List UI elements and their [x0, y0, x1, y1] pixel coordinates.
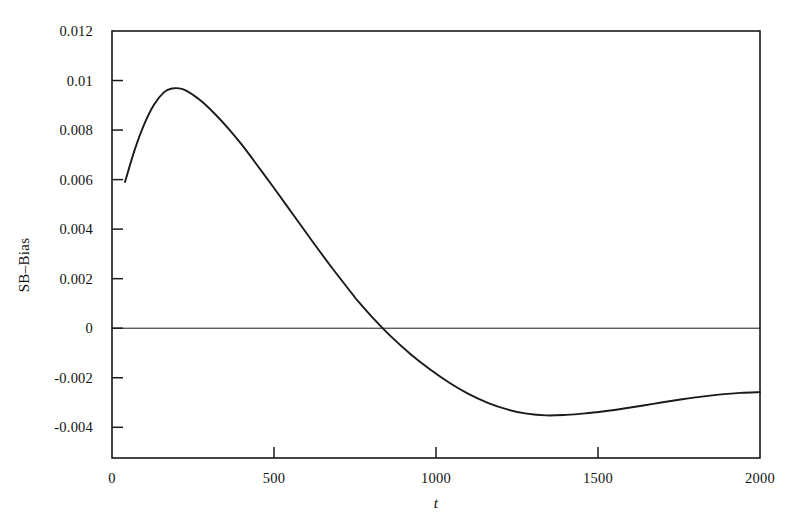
x-axis-label: t	[434, 494, 438, 512]
y-tick-label: -0.002	[0, 369, 93, 386]
x-tick-label: 0	[108, 470, 115, 487]
y-tick-label: -0.004	[0, 419, 93, 436]
y-tick-label: 0.004	[0, 221, 93, 238]
x-tick-label: 1000	[421, 470, 451, 487]
y-tick-label: 0.012	[0, 23, 93, 40]
y-tick-label: 0.006	[0, 171, 93, 188]
plot-area	[0, 0, 811, 530]
x-tick-label: 2000	[745, 470, 775, 487]
y-tick-label: 0.01	[0, 72, 93, 89]
data-series-line	[125, 88, 760, 415]
y-axis-ticks	[112, 81, 123, 428]
axes-frame	[112, 31, 760, 458]
x-tick-label: 500	[263, 470, 285, 487]
chart-figure: 0.0120.010.0080.0060.0040.0020-0.002-0.0…	[0, 0, 811, 530]
y-tick-label: 0	[0, 320, 93, 337]
x-tick-label: 1500	[583, 470, 613, 487]
y-tick-label: 0.002	[0, 270, 93, 287]
y-axis-label: SB–Bias	[16, 238, 33, 293]
x-axis-ticks	[274, 447, 598, 458]
y-tick-label: 0.008	[0, 122, 93, 139]
